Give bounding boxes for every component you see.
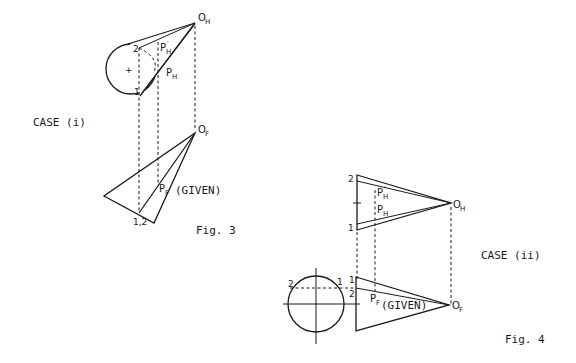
fig4-caption: Fig. 4 [505,333,545,346]
generator-pf [139,133,195,213]
fig4-front-view: 1 2 O F P F (GIVEN) [349,275,463,331]
svg-text:(GIVEN): (GIVEN) [381,299,427,312]
point-2-label: 2 [133,44,139,54]
top-point-2-label: 2 [348,174,354,184]
fig3-front-view: O F P F (GIVEN) 1,2 [104,124,221,227]
front-point-1-label: 1 [349,275,355,285]
svg-text:′: ′ [384,185,386,193]
svg-text:H: H [383,193,388,201]
circle-center-mark: + [125,65,133,75]
of-label: O F [198,124,209,138]
svg-text:F: F [165,189,169,197]
svg-text:H: H [172,73,177,81]
circle-point-1-label: 1 [337,277,343,287]
figure-4: CASE (ii) 2 1 O H P H ′ P H [283,174,545,346]
case-ii-label: CASE (ii) [481,249,541,262]
fig4-top-view: 2 1 O H P H ′ P H [348,174,465,233]
svg-text:H: H [460,205,465,213]
circle-point-2-label: 2 [288,279,294,289]
svg-text:H: H [205,18,210,26]
svg-text:(GIVEN): (GIVEN) [175,184,221,197]
front-triangle [104,133,195,223]
oh-label-4: O H [453,199,465,213]
svg-text:F: F [459,306,463,314]
drawing-canvas: CASE (i) + 2 1 O H P H ′ P [0,0,576,363]
top-triangle [357,175,451,230]
svg-text:F: F [376,299,380,307]
pf-given-label: P F (GIVEN) [159,183,221,197]
fig3-caption: Fig. 3 [196,224,236,237]
case-i-label: CASE (i) [33,116,86,129]
of-label-4: O F [452,300,463,314]
front-point-2-label: 2 [349,289,355,299]
ph-prime-label-4: P H ′ [377,185,388,201]
oh-label: O H [198,12,210,26]
figure-3: CASE (i) + 2 1 O H P H ′ P [33,12,236,237]
svg-text:H: H [383,210,388,218]
fig4-circle-view: 2 1 [283,268,356,344]
svg-text:F: F [205,130,209,138]
top-point-1-label: 1 [348,223,354,233]
point-1-2-label: 1,2 [133,217,147,227]
ph-label-4: P H [377,204,388,218]
ph-label: P H [166,67,177,81]
svg-text:H: H [166,48,171,56]
